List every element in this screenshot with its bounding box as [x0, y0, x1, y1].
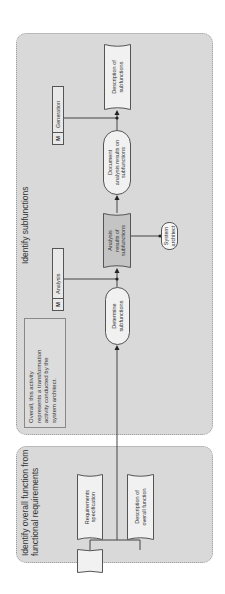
method-label: Generation	[53, 87, 63, 132]
step-determine-subfunctions: Determine subfunctions	[105, 287, 130, 345]
actor-system-architect: System architect	[161, 222, 178, 250]
step-document-analysis-results: Document analysis results on subfunction…	[103, 130, 131, 195]
method-label: Analysis	[53, 249, 63, 298]
doc-analysis-results: Analysis results of subfunctions	[103, 213, 131, 268]
process-diagram: Identify overall function from functiona…	[0, 0, 225, 594]
note-transformation-activity: Overall, this activity represents a tran…	[24, 318, 66, 428]
document-shape-icon	[77, 549, 103, 573]
method-generation: M Generation	[52, 86, 64, 145]
method-tag: M	[53, 298, 63, 310]
method-analysis: M Analysis	[52, 248, 64, 311]
doc-requirements-specification-label: Requirements specification	[77, 474, 103, 540]
doc-description-overall-function: Description of overall function	[127, 474, 154, 540]
method-tag: M	[53, 132, 63, 144]
doc-requirements-specification	[77, 549, 103, 573]
doc-description-subfunctions: Description of subfunctions	[104, 44, 131, 110]
